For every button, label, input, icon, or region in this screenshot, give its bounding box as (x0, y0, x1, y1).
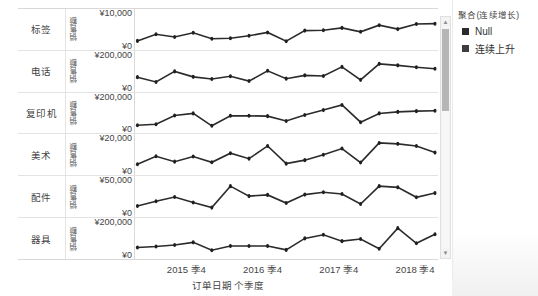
data-point-marker[interactable] (303, 159, 306, 163)
data-point-marker[interactable] (192, 75, 195, 79)
data-point-marker[interactable] (210, 206, 213, 210)
data-point-marker[interactable] (247, 113, 250, 117)
data-point-marker[interactable] (210, 37, 213, 41)
data-point-marker[interactable] (192, 111, 195, 115)
data-point-marker[interactable] (136, 39, 139, 43)
data-point-marker[interactable] (359, 30, 362, 34)
data-point-marker[interactable] (340, 103, 343, 107)
data-point-marker[interactable] (173, 160, 176, 164)
data-point-marker[interactable] (340, 65, 343, 69)
data-point-marker[interactable] (192, 31, 195, 35)
data-point-marker[interactable] (285, 119, 288, 123)
data-point-marker[interactable] (303, 113, 306, 117)
data-point-marker[interactable] (303, 193, 306, 197)
data-point-marker[interactable] (229, 244, 232, 248)
data-point-marker[interactable] (359, 161, 362, 165)
data-point-marker[interactable] (247, 244, 250, 248)
data-point-marker[interactable] (378, 141, 381, 145)
data-point-marker[interactable] (433, 232, 436, 236)
data-point-marker[interactable] (359, 237, 362, 241)
data-point-marker[interactable] (229, 74, 232, 78)
data-point-marker[interactable] (266, 69, 269, 73)
data-point-marker[interactable] (285, 162, 288, 166)
data-point-marker[interactable] (247, 194, 250, 198)
plot-area[interactable] (134, 51, 438, 92)
data-point-marker[interactable] (155, 32, 158, 36)
data-point-marker[interactable] (322, 153, 325, 157)
data-point-marker[interactable] (247, 79, 250, 83)
data-point-marker[interactable] (136, 204, 139, 208)
data-point-marker[interactable] (322, 28, 325, 32)
data-point-marker[interactable] (340, 192, 343, 196)
data-point-marker[interactable] (210, 248, 213, 252)
data-point-marker[interactable] (266, 244, 269, 248)
data-point-marker[interactable] (229, 152, 232, 156)
data-point-marker[interactable] (285, 76, 288, 80)
data-point-marker[interactable] (210, 123, 213, 127)
data-point-marker[interactable] (173, 69, 176, 73)
data-point-marker[interactable] (173, 35, 176, 39)
data-point-marker[interactable] (322, 190, 325, 194)
data-point-marker[interactable] (396, 63, 399, 67)
data-point-marker[interactable] (433, 66, 436, 70)
data-point-marker[interactable] (285, 248, 288, 252)
data-point-marker[interactable] (415, 65, 418, 69)
data-point-marker[interactable] (322, 108, 325, 112)
data-point-marker[interactable] (155, 200, 158, 204)
data-point-marker[interactable] (378, 23, 381, 27)
data-point-marker[interactable] (340, 147, 343, 151)
data-point-marker[interactable] (340, 26, 343, 30)
data-point-marker[interactable] (303, 73, 306, 77)
data-point-marker[interactable] (415, 22, 418, 26)
data-point-marker[interactable] (136, 163, 139, 167)
data-point-marker[interactable] (378, 247, 381, 251)
data-point-marker[interactable] (136, 123, 139, 127)
plot-area[interactable] (134, 218, 438, 259)
data-point-marker[interactable] (415, 144, 418, 148)
data-point-marker[interactable] (155, 80, 158, 84)
data-point-marker[interactable] (136, 75, 139, 79)
scroll-down-arrow-icon[interactable]: ▼ (441, 248, 450, 258)
data-point-marker[interactable] (266, 193, 269, 197)
data-point-marker[interactable] (396, 110, 399, 114)
data-point-marker[interactable] (210, 77, 213, 81)
data-point-marker[interactable] (359, 120, 362, 124)
data-point-marker[interactable] (285, 39, 288, 43)
data-point-marker[interactable] (396, 27, 399, 31)
plot-area[interactable] (134, 134, 438, 175)
data-point-marker[interactable] (136, 246, 139, 250)
data-point-marker[interactable] (378, 62, 381, 66)
data-point-marker[interactable] (303, 29, 306, 33)
data-point-marker[interactable] (192, 155, 195, 159)
data-point-marker[interactable] (378, 111, 381, 115)
data-point-marker[interactable] (340, 239, 343, 243)
vertical-scrollbar[interactable]: ▲ ▼ (440, 16, 451, 259)
data-point-marker[interactable] (415, 241, 418, 245)
data-point-marker[interactable] (192, 240, 195, 244)
data-point-marker[interactable] (433, 22, 436, 26)
data-point-marker[interactable] (359, 78, 362, 82)
scroll-up-arrow-icon[interactable]: ▲ (441, 17, 450, 27)
data-point-marker[interactable] (415, 196, 418, 200)
data-point-marker[interactable] (303, 237, 306, 241)
data-point-marker[interactable] (285, 201, 288, 205)
data-point-marker[interactable] (155, 245, 158, 249)
data-point-marker[interactable] (247, 157, 250, 161)
data-point-marker[interactable] (192, 201, 195, 205)
data-point-marker[interactable] (247, 34, 250, 38)
data-point-marker[interactable] (396, 226, 399, 230)
data-point-marker[interactable] (433, 151, 436, 155)
data-point-marker[interactable] (359, 202, 362, 206)
data-point-marker[interactable] (266, 114, 269, 118)
data-point-marker[interactable] (173, 113, 176, 117)
plot-area[interactable] (134, 93, 438, 134)
data-point-marker[interactable] (396, 142, 399, 146)
scrollbar-thumb[interactable] (442, 29, 449, 111)
data-point-marker[interactable] (322, 74, 325, 78)
data-point-marker[interactable] (173, 243, 176, 247)
data-point-marker[interactable] (415, 109, 418, 113)
data-point-marker[interactable] (378, 184, 381, 188)
data-point-marker[interactable] (433, 108, 436, 112)
data-point-marker[interactable] (229, 113, 232, 117)
data-point-marker[interactable] (396, 186, 399, 190)
